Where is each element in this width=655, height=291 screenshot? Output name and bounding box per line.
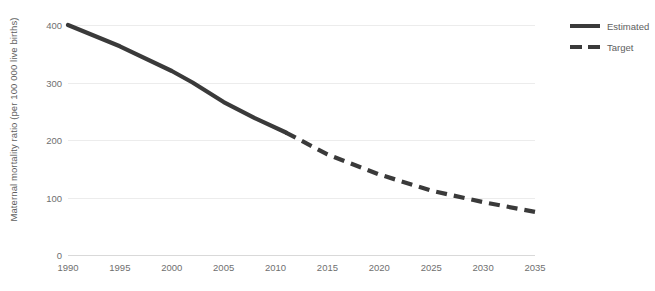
series-line-estimated — [68, 25, 286, 133]
chart-container: Maternal mortality ratio (per 100 000 li… — [0, 0, 655, 291]
legend-label: Estimated — [607, 21, 649, 32]
series-svg — [63, 13, 543, 268]
y-tick-label: 100 — [18, 192, 62, 203]
x-tick-label: 2025 — [408, 262, 454, 273]
x-tick-label: 1995 — [97, 262, 143, 273]
plot-area — [68, 25, 535, 255]
legend-swatch-solid-icon — [570, 24, 600, 28]
y-tick-label: 400 — [18, 20, 62, 31]
y-axis-title: Maternal mortality ratio (per 100 000 li… — [0, 0, 26, 265]
legend-item[interactable]: Estimated — [570, 17, 652, 35]
legend-swatch-dashed-icon — [570, 45, 600, 49]
x-tick-label: 2020 — [356, 262, 402, 273]
chart-legend: EstimatedTarget — [570, 17, 652, 59]
legend-item[interactable]: Target — [570, 38, 652, 56]
x-tick-label: 2010 — [253, 262, 299, 273]
legend-label: Target — [607, 42, 633, 53]
x-tick-label: 2005 — [201, 262, 247, 273]
series-line-target — [286, 133, 535, 212]
cut-off-title-strip — [0, 0, 655, 8]
x-tick-label: 2030 — [460, 262, 506, 273]
y-tick-label: 0 — [18, 250, 62, 261]
x-tick-label: 1990 — [45, 262, 91, 273]
y-tick-label: 300 — [18, 77, 62, 88]
x-tick-label: 2035 — [512, 262, 558, 273]
x-tick-label: 2000 — [149, 262, 195, 273]
x-tick-label: 2015 — [304, 262, 350, 273]
y-tick-label: 200 — [18, 135, 62, 146]
